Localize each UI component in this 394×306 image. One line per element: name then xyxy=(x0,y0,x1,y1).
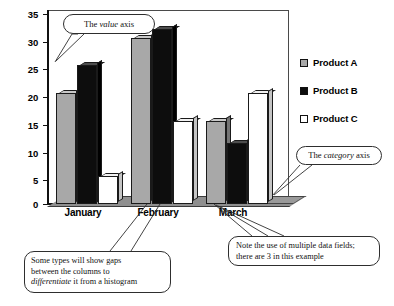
category-label-february: February xyxy=(121,207,195,218)
callout-data-fields: Note the use of multiple data fields; th… xyxy=(228,236,380,266)
bar-march-product-a[interactable] xyxy=(206,121,226,204)
callout-value-axis-text: The value axis xyxy=(84,19,134,30)
callout-category-axis: The category axis xyxy=(296,146,382,165)
legend-swatch-icon-product-b xyxy=(300,87,308,95)
bar-january-product-a[interactable] xyxy=(56,93,76,204)
callout-fields-line-2: there are 3 in this example xyxy=(236,252,372,263)
legend-item-product-b[interactable]: Product B xyxy=(300,85,358,96)
y-tick-label-5: 5 xyxy=(16,175,38,186)
bar-group-january xyxy=(56,10,120,204)
legend-label-product-a: Product A xyxy=(313,57,357,68)
y-tick-label-20: 20 xyxy=(16,92,38,103)
y-tick-label-0: 0 xyxy=(16,198,38,209)
bar-group-march xyxy=(206,10,270,204)
bar-series-container xyxy=(47,10,289,204)
legend-swatch-icon-product-a xyxy=(300,59,308,67)
legend-label-product-c: Product C xyxy=(313,113,358,124)
callout-gaps-line-3: differentiate it from a histogram xyxy=(31,277,164,288)
callout-column-gaps: Some types will show gaps between the co… xyxy=(24,251,171,293)
bar-january-product-b[interactable] xyxy=(77,65,97,204)
legend-swatch-icon-product-c xyxy=(300,115,308,123)
bar-march-product-c[interactable] xyxy=(248,93,268,204)
bar-february-product-a[interactable] xyxy=(131,38,151,204)
legend-item-product-c[interactable]: Product C xyxy=(300,113,358,124)
bar-january-product-c[interactable] xyxy=(98,176,118,204)
bar-march-product-b[interactable] xyxy=(227,143,247,204)
category-label-march: March xyxy=(196,207,270,218)
callout-gaps-line-2: between the columns to xyxy=(31,267,164,278)
legend-item-product-a[interactable]: Product A xyxy=(300,57,358,68)
y-tick-label-25: 25 xyxy=(16,64,38,75)
category-label-january: January xyxy=(46,207,120,218)
legend: Product A Product B Product C xyxy=(300,57,358,141)
bar-february-product-c[interactable] xyxy=(173,121,193,204)
callout-category-axis-text: The category axis xyxy=(308,150,370,161)
chart-figure: 35 30 25 20 15 10 5 0 xyxy=(0,0,394,306)
callout-gaps-line-1: Some types will show gaps xyxy=(31,256,164,267)
callout-value-axis: The value axis xyxy=(63,14,155,34)
callout-fields-line-1: Note the use of multiple data fields; xyxy=(236,241,372,252)
y-tick-label-30: 30 xyxy=(16,36,38,47)
y-tick-label-10: 10 xyxy=(16,147,38,158)
bar-february-product-b[interactable] xyxy=(152,29,172,204)
legend-label-product-b: Product B xyxy=(313,85,358,96)
y-tick-label-15: 15 xyxy=(16,119,38,130)
y-tick-label-35: 35 xyxy=(16,9,38,20)
bar-group-february xyxy=(131,10,195,204)
